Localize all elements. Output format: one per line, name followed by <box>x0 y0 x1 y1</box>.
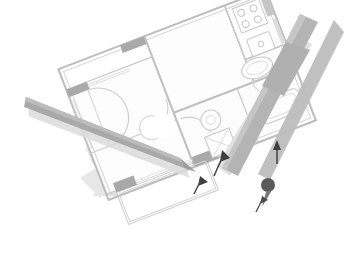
floor-plan-canvas: Rotated apartment floor plan with light-… <box>0 0 346 258</box>
marker-dot[interactable] <box>261 178 275 192</box>
floor-plan-drawing <box>0 0 346 258</box>
light-hotspot-halo <box>150 113 176 139</box>
